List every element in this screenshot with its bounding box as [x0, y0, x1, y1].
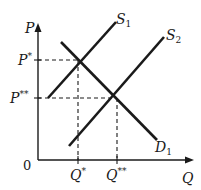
x-axis-arrow-icon — [185, 157, 194, 164]
q-star-label: Q* — [70, 166, 86, 183]
y-axis-arrow-icon — [35, 23, 42, 32]
y-axis-label: P — [24, 20, 35, 36]
p-star-label: P* — [17, 51, 32, 68]
x-axis-label: Q — [182, 170, 194, 186]
guide-lines — [38, 60, 117, 160]
origin-label: 0 — [23, 158, 31, 173]
demand-curve-d1 — [61, 42, 157, 140]
ticks — [34, 60, 117, 164]
s1-label: S1 — [116, 11, 131, 29]
q-star-star-label: Q** — [106, 166, 127, 183]
d1-label: D1 — [154, 139, 172, 157]
supply-demand-diagram: P Q 0 P* P** Q* Q** S1 S2 D1 — [0, 0, 201, 190]
s2-label: S2 — [166, 27, 181, 45]
curves — [48, 22, 164, 146]
p-star-star-label: P** — [9, 89, 29, 106]
